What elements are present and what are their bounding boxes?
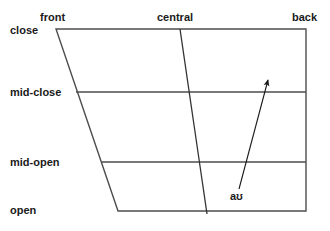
- axis-label-open: open: [10, 204, 36, 216]
- gridline-central: [180, 29, 207, 214]
- axis-label-mid-close: mid-close: [10, 86, 61, 98]
- vowel-quadrilateral-svg: [0, 0, 330, 231]
- axis-label-close: close: [10, 24, 38, 36]
- axis-label-mid-open: mid-open: [10, 156, 60, 168]
- diphthong-label: aʊ: [230, 190, 243, 202]
- vowel-space-diagram: front central back close mid-close mid-o…: [0, 0, 330, 231]
- axis-label-back: back: [292, 11, 317, 23]
- diphthong-trajectory-arrow: [239, 80, 268, 189]
- axis-label-front: front: [40, 11, 65, 23]
- axis-label-central: central: [157, 11, 193, 23]
- vowel-trapezoid-outline: [56, 29, 306, 211]
